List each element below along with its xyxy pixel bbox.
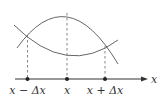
concave-up-curve: [14, 25, 118, 56]
point-right: [103, 77, 107, 81]
label-left: x − Δx: [9, 84, 46, 97]
label-right: x + Δx: [87, 84, 124, 97]
point-center: [65, 77, 69, 81]
label-center: x: [64, 84, 71, 97]
diagram-canvas: x x − Δx x x + Δx: [0, 0, 161, 98]
axis-label: x: [151, 73, 158, 86]
axis-arrowhead-icon: [141, 77, 148, 82]
point-left: [26, 77, 30, 81]
